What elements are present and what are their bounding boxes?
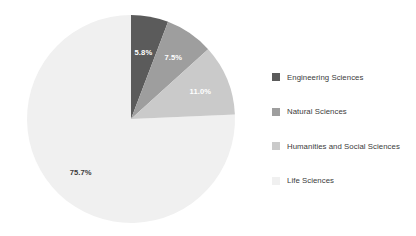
pie-slices	[27, 15, 235, 223]
legend-swatch-icon	[272, 177, 280, 185]
legend-item-humanities-and-social-sciences[interactable]: Humanities and Social Sciences	[272, 137, 416, 155]
slice-label-life-sciences: 75.7%	[70, 168, 92, 177]
legend-item-natural-sciences[interactable]: Natural Sciences	[272, 103, 416, 121]
pie-svg: 5.8% 7.5% 11.0% 75.7%	[0, 0, 262, 236]
legend-item-life-sciences[interactable]: Life Sciences	[272, 172, 416, 190]
legend-item-label: Engineering Sciences	[287, 73, 363, 82]
legend-item-engineering-sciences[interactable]: Engineering Sciences	[272, 68, 416, 86]
slice-label-natural-sciences: 7.5%	[164, 53, 182, 62]
slice-label-engineering-sciences: 5.8%	[135, 48, 153, 57]
chart-legend: Engineering Sciences Natural Sciences Hu…	[272, 68, 416, 206]
pie-chart-figure: 5.8% 7.5% 11.0% 75.7% Engineering Scienc…	[0, 0, 416, 236]
slice-label-humanities-and-social-sciences: 11.0%	[189, 87, 211, 96]
legend-swatch-icon	[272, 108, 280, 116]
pie-plot-area: 5.8% 7.5% 11.0% 75.7%	[0, 0, 262, 236]
legend-item-label: Humanities and Social Sciences	[287, 142, 400, 151]
legend-swatch-icon	[272, 142, 280, 150]
legend-item-label: Life Sciences	[287, 176, 334, 185]
legend-swatch-icon	[272, 73, 280, 81]
legend-item-label: Natural Sciences	[287, 107, 347, 116]
